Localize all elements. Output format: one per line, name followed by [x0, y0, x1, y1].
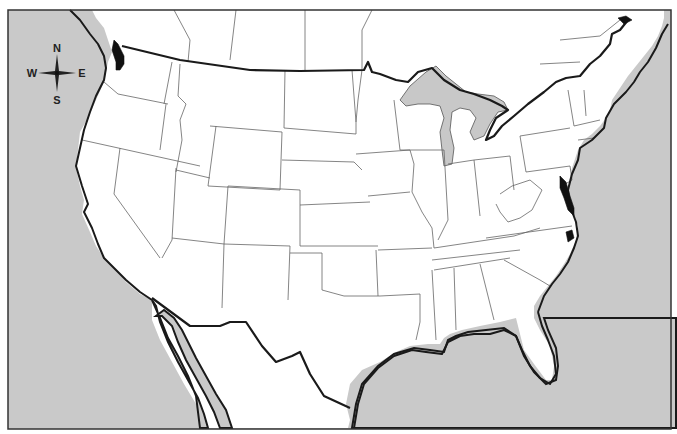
compass-north-label: N: [53, 42, 61, 54]
compass-east-label: E: [78, 67, 85, 79]
compass-south-label: S: [53, 94, 60, 106]
outline-map: N S W E: [0, 0, 677, 434]
compass-west-label: W: [27, 67, 38, 79]
